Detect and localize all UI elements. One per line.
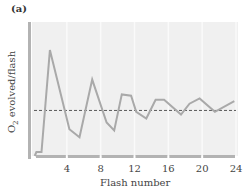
x-tick-label: 24 [226, 163, 246, 174]
x-tick-label: 8 [91, 163, 111, 174]
x-tick-label: 16 [158, 163, 178, 174]
x-axis-segment [102, 155, 134, 158]
x-axis-segment [203, 155, 235, 158]
x-tick-label: 20 [192, 163, 212, 174]
x-axis-segment [169, 155, 201, 158]
x-axis-segment [136, 155, 168, 158]
x-tick-label: 4 [57, 163, 77, 174]
x-axis-segment [68, 155, 100, 158]
x-axis-label: Flash number [100, 177, 170, 188]
x-axis-segment [36, 155, 66, 158]
x-tick-label: 12 [125, 163, 145, 174]
y-axis-bar [28, 22, 31, 159]
